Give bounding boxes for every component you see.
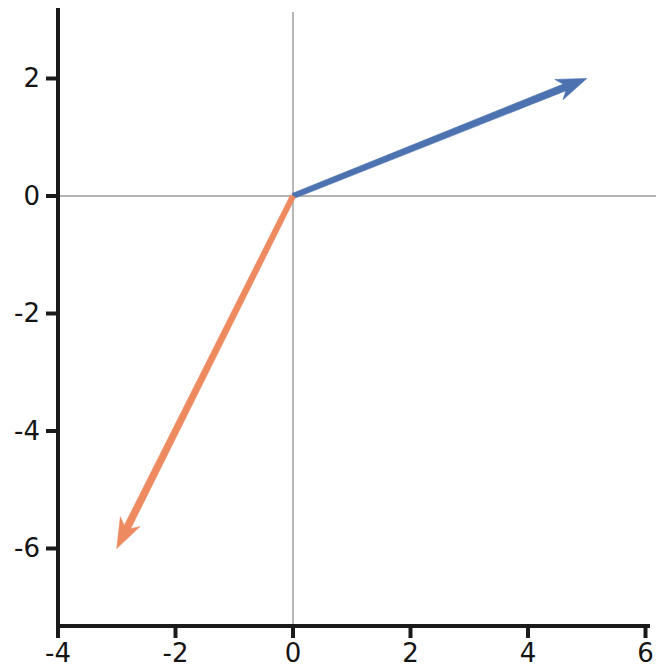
y-tick-label: -2 [14, 298, 40, 328]
x-tick-label: 6 [637, 638, 654, 668]
x-tick-label: 0 [285, 638, 302, 668]
x-tick-label: -4 [45, 638, 71, 668]
x-tick-label: -2 [163, 638, 189, 668]
vector-plot: -4-20246 20-2-4-6 [0, 0, 656, 668]
x-tick-label: 2 [402, 638, 419, 668]
y-tick-label: 0 [23, 181, 40, 211]
y-tick-label: 2 [23, 63, 40, 93]
figure-canvas: -4-20246 20-2-4-6 [0, 0, 656, 668]
plot-background [0, 0, 656, 668]
y-tick-label: -6 [14, 533, 40, 563]
x-tick-label: 4 [520, 638, 537, 668]
y-tick-label: -4 [14, 416, 40, 446]
